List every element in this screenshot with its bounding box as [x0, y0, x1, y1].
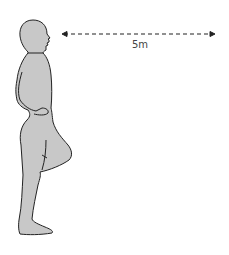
person-figure [16, 20, 72, 235]
arrowhead-left-icon [62, 32, 67, 37]
arrowhead-right-icon [210, 32, 215, 37]
head [20, 20, 50, 56]
distance-label: 5m [120, 39, 160, 50]
distance-arrow [62, 32, 215, 37]
diagram-canvas [0, 0, 229, 255]
body [16, 53, 72, 235]
